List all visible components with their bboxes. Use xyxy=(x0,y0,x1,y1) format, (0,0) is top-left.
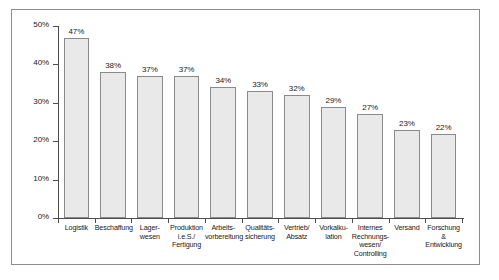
bar-value-label: 33% xyxy=(252,80,268,89)
bar-value-label: 32% xyxy=(289,84,305,93)
bar-value-label: 37% xyxy=(142,65,158,74)
bar: 29% xyxy=(321,107,347,218)
y-axis-tick-label: 40% xyxy=(33,58,49,67)
plot-area: 47%38%37%37%34%33%32%29%27%23%22% xyxy=(58,26,462,218)
x-axis-category-label: Vorkalku- lation xyxy=(315,224,352,241)
x-axis-category-label: Qualitäts- sicherung xyxy=(242,224,279,241)
bar-value-label: 23% xyxy=(399,119,415,128)
bar-value-label: 27% xyxy=(362,103,378,112)
x-axis-category-label: Vertrieb/ Absatz xyxy=(278,224,315,241)
bar: 22% xyxy=(431,134,457,218)
x-axis-tick-mark xyxy=(425,219,426,223)
x-axis-tick-mark xyxy=(278,219,279,223)
y-axis-tick-label: 50% xyxy=(33,20,49,29)
x-axis-category-label: Logistik xyxy=(58,224,95,233)
bar-value-label: 37% xyxy=(179,65,195,74)
x-axis-category-label: Beschaffung xyxy=(95,224,132,233)
bar-value-label: 29% xyxy=(326,96,342,105)
x-axis-line xyxy=(58,218,464,219)
x-axis-tick-mark xyxy=(168,219,169,223)
chart-figure: 0%10%20%30%40%50% 47%38%37%37%34%33%32%2… xyxy=(0,0,499,280)
x-axis-category-label: Arbeits- vorbereitung xyxy=(205,224,242,241)
x-axis-category-label: Versand xyxy=(389,224,426,233)
bar-value-label: 22% xyxy=(436,123,452,132)
x-axis-category-label: Lager- wesen xyxy=(131,224,168,241)
x-axis-tick-mark xyxy=(462,219,463,223)
bar: 33% xyxy=(247,91,273,218)
bar: 37% xyxy=(137,76,163,218)
bar: 47% xyxy=(64,38,90,218)
bar: 37% xyxy=(174,76,200,218)
bar-value-label: 34% xyxy=(215,76,231,85)
y-axis-tick-label: 10% xyxy=(33,174,49,183)
x-axis-category-label: Produktion i.e.S./ Fertigung xyxy=(168,224,205,250)
bar: 23% xyxy=(394,130,420,218)
bar: 32% xyxy=(284,95,310,218)
x-axis-tick-mark xyxy=(352,219,353,223)
x-axis-tick-mark xyxy=(58,219,59,223)
bar: 27% xyxy=(357,114,383,218)
bar: 38% xyxy=(100,72,126,218)
x-axis-tick-mark xyxy=(315,219,316,223)
x-axis-category-label: Internes Rechnungs- wesen/ Controlling xyxy=(352,224,389,258)
bar-value-label: 47% xyxy=(68,27,84,36)
x-axis-tick-mark xyxy=(389,219,390,223)
bar-value-label: 38% xyxy=(105,61,121,70)
y-axis-tick-label: 20% xyxy=(33,135,49,144)
bar: 34% xyxy=(210,87,236,218)
y-axis-tick-label: 0% xyxy=(38,212,49,221)
x-axis-category-label: Forschung & Entwicklung xyxy=(425,224,462,250)
x-axis-tick-mark xyxy=(242,219,243,223)
x-axis-tick-mark xyxy=(205,219,206,223)
y-axis-tick-label: 30% xyxy=(33,97,49,106)
